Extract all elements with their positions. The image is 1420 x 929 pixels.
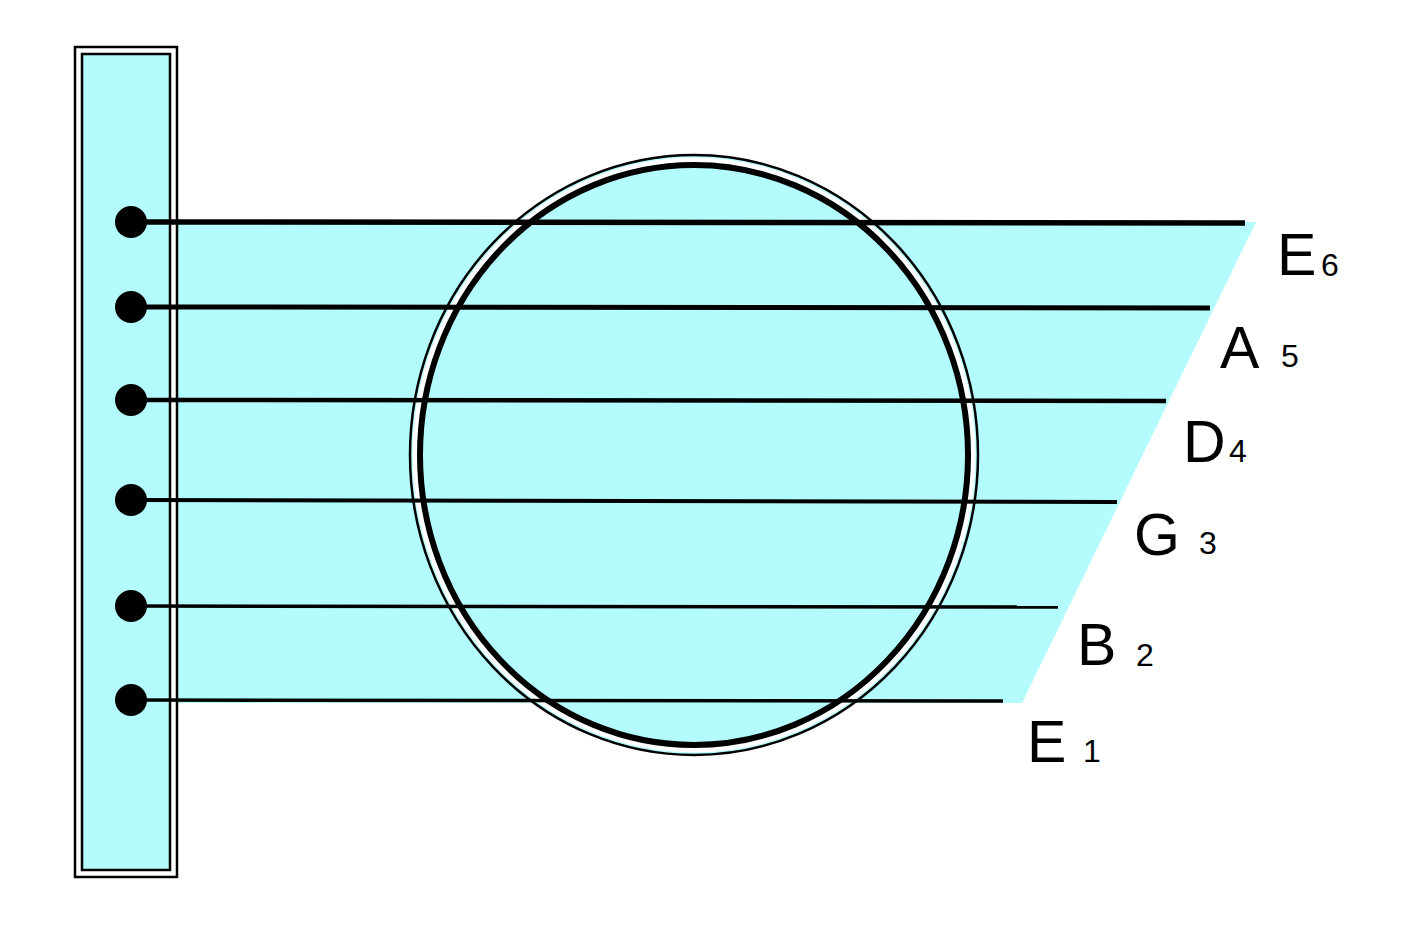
string-peg-3 (115, 484, 147, 516)
string-number: 4 (1229, 433, 1247, 469)
label-string-4: D 4 (1183, 409, 1247, 475)
label-string-1: E 1 (1027, 709, 1101, 775)
string-number: 2 (1136, 637, 1154, 673)
note-name: B (1077, 612, 1116, 678)
string-peg-1 (115, 684, 147, 716)
note-name: D (1183, 409, 1226, 475)
string-peg-5 (115, 291, 147, 323)
sound-hole (410, 155, 978, 755)
note-name: G (1134, 502, 1180, 568)
string-number: 3 (1199, 525, 1217, 561)
label-string-6: E 6 (1277, 222, 1339, 288)
label-string-5: A 5 (1220, 315, 1299, 381)
string-number: 5 (1281, 338, 1299, 374)
string-peg-4 (115, 384, 147, 416)
note-name: E (1277, 222, 1316, 288)
label-string-3: G 3 (1134, 502, 1217, 568)
fretboard-bar (75, 47, 177, 877)
note-name: A (1220, 315, 1260, 381)
note-name: E (1027, 709, 1066, 775)
label-string-2: B 2 (1077, 612, 1154, 678)
guitar-strings-diagram: E 6 A 5 D 4 G 3 B 2 E 1 (0, 0, 1420, 929)
string-number: 1 (1083, 733, 1101, 769)
string-peg-6 (115, 206, 147, 238)
string-peg-2 (115, 590, 147, 622)
string-number: 6 (1321, 247, 1339, 283)
